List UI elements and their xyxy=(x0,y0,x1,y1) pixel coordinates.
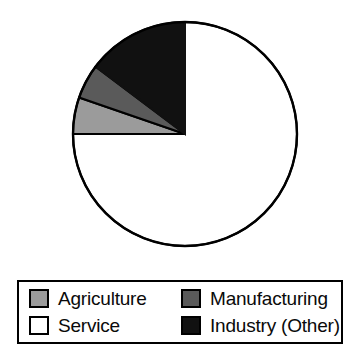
legend-label-manufacturing: Manufacturing xyxy=(210,289,328,308)
pie-chart-graphic xyxy=(0,0,347,272)
service-swatch xyxy=(29,316,49,335)
legend-label-service: Service xyxy=(58,316,120,335)
legend-label-industry-other: Industry (Other) xyxy=(210,316,340,335)
legend-item-industry-other[interactable]: Industry (Other) xyxy=(181,312,341,339)
chart-legend: Agriculture Manufacturing Service Indust… xyxy=(17,280,343,344)
legend-item-manufacturing[interactable]: Manufacturing xyxy=(181,285,341,312)
industry-other-swatch xyxy=(181,316,201,335)
agriculture-swatch xyxy=(29,289,49,308)
legend-label-agriculture: Agriculture xyxy=(58,289,147,308)
pie-chart-area xyxy=(0,0,347,272)
manufacturing-swatch xyxy=(181,289,201,308)
legend-item-agriculture[interactable]: Agriculture xyxy=(29,285,181,312)
legend-item-service[interactable]: Service xyxy=(29,312,181,339)
